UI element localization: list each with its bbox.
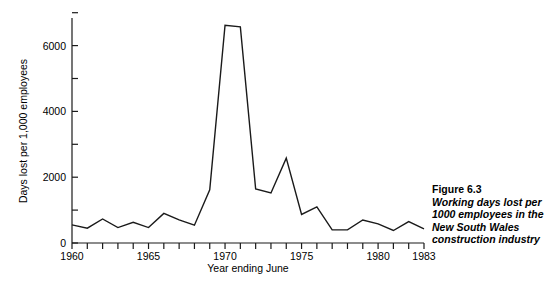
figure-caption: Figure 6.3 Working days lost per 1000 em… xyxy=(432,183,552,246)
data-series-line xyxy=(72,25,424,230)
y-axis-title: Days lost per 1,000 employees xyxy=(17,59,29,203)
figure-container: 0200040006000 196019651970197519801983 Y… xyxy=(0,0,556,294)
x-tick-label-1983: 1983 xyxy=(412,250,436,262)
x-tick-label-1965: 1965 xyxy=(137,250,161,262)
y-axis-tick-labels: 0200040006000 xyxy=(43,40,67,249)
x-tick-label-1975: 1975 xyxy=(290,250,314,262)
x-axis-ticks xyxy=(72,243,424,249)
line-chart: 0200040006000 196019651970197519801983 Y… xyxy=(0,0,556,294)
x-tick-label-1980: 1980 xyxy=(366,250,390,262)
y-tick-label-2000: 2000 xyxy=(43,171,67,183)
y-tick-label-6000: 6000 xyxy=(43,40,67,52)
figure-caption-text: Working days lost per 1000 employees in … xyxy=(432,196,552,246)
x-tick-label-1970: 1970 xyxy=(213,250,237,262)
figure-caption-number: Figure 6.3 xyxy=(432,183,552,196)
x-axis-title: Year ending June xyxy=(207,262,289,274)
x-tick-label-1960: 1960 xyxy=(60,250,84,262)
y-tick-label-4000: 4000 xyxy=(43,105,67,117)
y-tick-label-0: 0 xyxy=(60,237,66,249)
x-axis-tick-labels: 196019651970197519801983 xyxy=(60,250,436,262)
